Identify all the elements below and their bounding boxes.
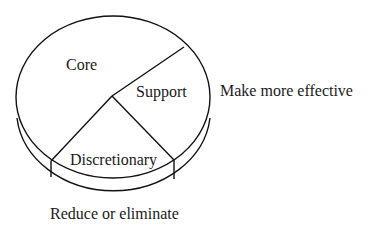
pie-diagram: Core Support Discretionary Make more eff… — [0, 0, 378, 226]
segment-label-support: Support — [136, 83, 187, 101]
annotation-make-more-effective: Make more effective — [220, 82, 353, 99]
segment-label-core: Core — [66, 56, 97, 73]
annotation-reduce-or-eliminate: Reduce or eliminate — [50, 205, 179, 222]
segment-label-discretionary: Discretionary — [70, 151, 157, 169]
